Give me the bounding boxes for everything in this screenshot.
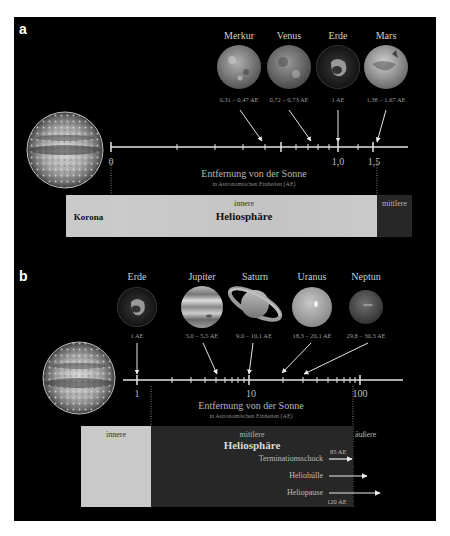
- feature-arrows: [0, 0, 450, 536]
- heliosphere-figure: a Merkur Venus Erde Mars 0,31 – 0,47 AE …: [0, 0, 450, 536]
